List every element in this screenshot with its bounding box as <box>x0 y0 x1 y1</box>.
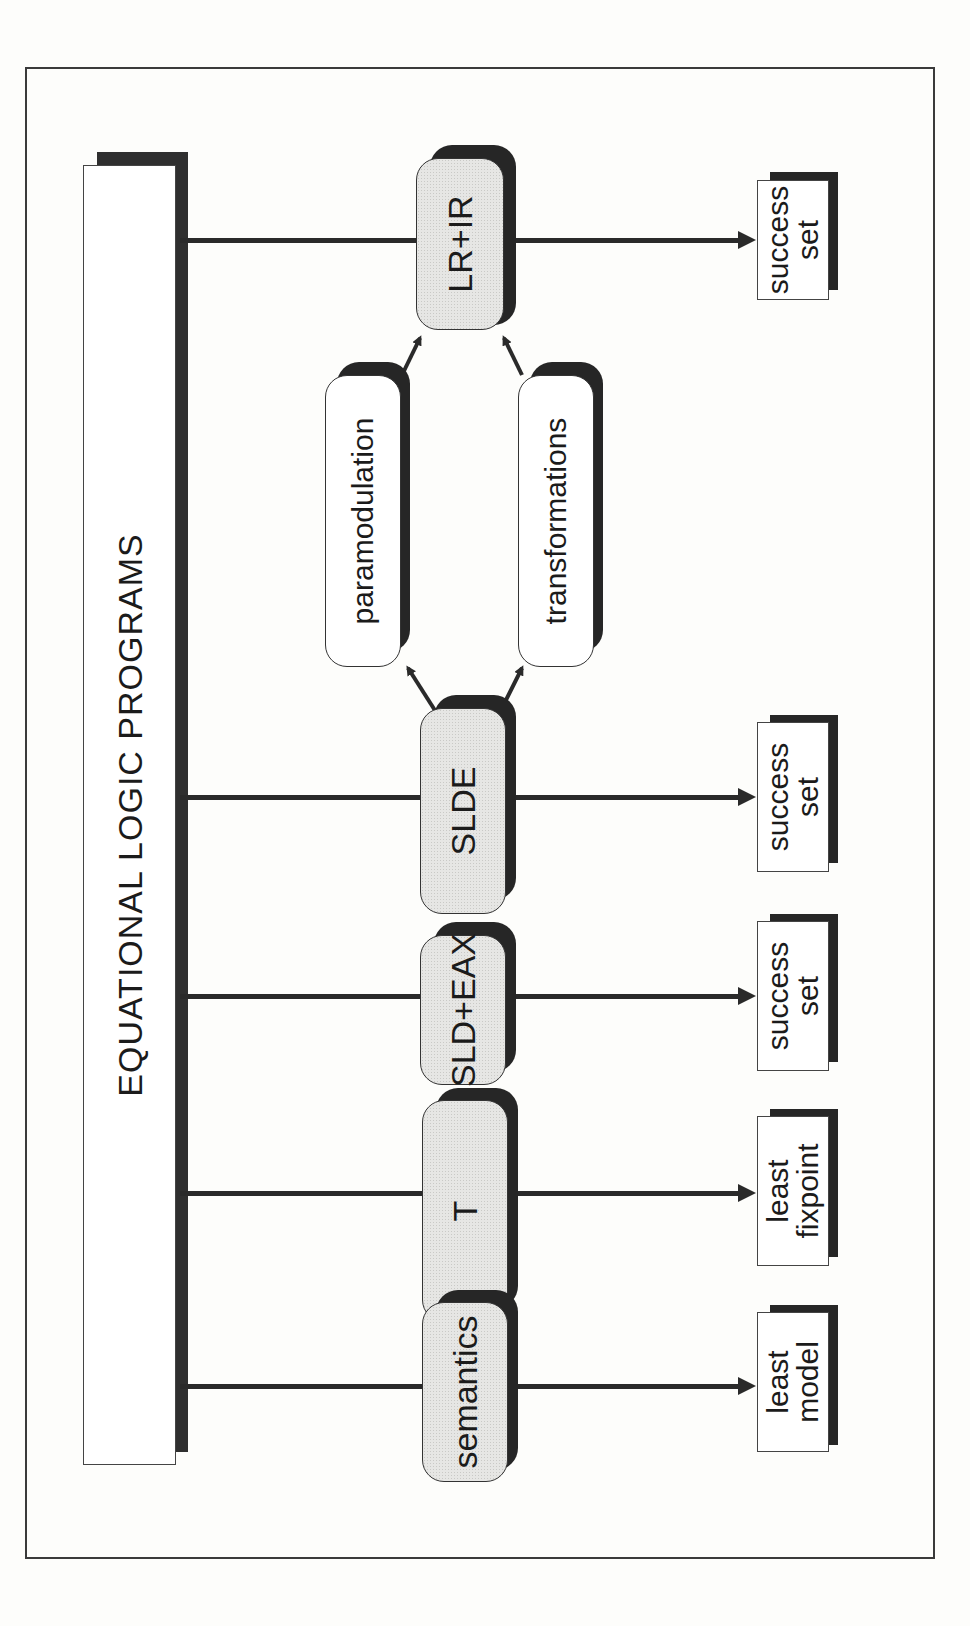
result-line-2: fixpoint <box>791 1143 824 1238</box>
result-least-model: leastmodel <box>757 1312 829 1452</box>
diagram-title: EQUATIONAL LOGIC PROGRAMS <box>113 533 147 1096</box>
arrowhead-icon <box>738 1377 756 1395</box>
result-line-1: least <box>761 1350 794 1413</box>
node-slde: SLDE <box>420 708 506 914</box>
node-label: SLDE <box>446 767 480 856</box>
result-line-2: set <box>791 220 824 260</box>
node-label: semantics <box>448 1315 482 1468</box>
result-success-set-slde: successset <box>757 722 829 872</box>
arrowhead-icon <box>738 1184 756 1202</box>
arrowhead-icon <box>738 231 756 249</box>
title-box: EQUATIONAL LOGIC PROGRAMS <box>83 165 176 1465</box>
result-line-2: model <box>791 1341 824 1423</box>
node-label: transformations <box>541 418 571 625</box>
arrowhead-icon <box>738 788 756 806</box>
result-success-set-lr-ir: successset <box>757 180 829 300</box>
result-line-1: success <box>761 186 794 294</box>
result-line-1: least <box>761 1159 794 1222</box>
result-line-1: success <box>761 743 794 851</box>
node-sld-eax: SLD+EAX <box>420 935 506 1085</box>
arrowhead-icon <box>738 987 756 1005</box>
node-label: LR+IR <box>443 195 477 292</box>
result-least-fixpoint: leastfixpoint <box>757 1116 829 1266</box>
node-label: T <box>448 1201 482 1222</box>
result-label: successset <box>763 942 823 1050</box>
result-line-1: success <box>761 942 794 1050</box>
result-label: successset <box>763 186 823 294</box>
result-success-set-sld-eax: successset <box>757 921 829 1071</box>
node-paramodulation: paramodulation <box>325 375 401 667</box>
node-label: SLD+EAX <box>446 933 480 1087</box>
node-semantics: semantics <box>422 1302 508 1482</box>
result-label: leastfixpoint <box>763 1143 823 1238</box>
node-lr-ir: LR+IR <box>416 158 504 330</box>
node-label: paramodulation <box>348 418 378 625</box>
result-line-2: set <box>791 777 824 817</box>
node-transformations: transformations <box>518 375 594 667</box>
node-t: T <box>422 1100 508 1322</box>
result-line-2: set <box>791 976 824 1016</box>
result-label: leastmodel <box>763 1341 823 1423</box>
result-label: successset <box>763 743 823 851</box>
